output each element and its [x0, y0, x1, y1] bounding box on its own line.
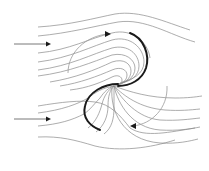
upper-rotation-arrow: [68, 31, 111, 73]
arrow-right-icon: [46, 117, 51, 122]
lower-rotation-arrowhead-icon: [130, 123, 136, 129]
arrow-right-icon: [46, 42, 51, 47]
flow-diagram: [0, 0, 209, 171]
flow-diagram-svg: [0, 0, 209, 171]
upper-inflow-arrow: [14, 42, 51, 47]
streamlines-upper: [38, 13, 195, 90]
lower-inflow-arrow: [14, 117, 51, 122]
upper-rotation-arrowhead-icon: [105, 31, 111, 37]
streamlines-lower: [38, 86, 202, 149]
